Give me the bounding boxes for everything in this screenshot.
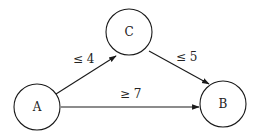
edge-label-a-b: ≥ 7 <box>120 87 142 101</box>
node-c: C <box>106 9 152 55</box>
node-label-a: A <box>32 100 42 114</box>
edge-label-a-c: ≤ 4 <box>73 52 95 66</box>
node-b: B <box>200 81 246 127</box>
node-label-c: C <box>124 25 133 39</box>
graph-diagram: ≤ 4 ≤ 5 ≥ 7 A C B <box>0 0 261 140</box>
node-a: A <box>14 84 60 130</box>
node-label-b: B <box>219 97 228 111</box>
edge-label-c-b: ≤ 5 <box>176 50 198 64</box>
